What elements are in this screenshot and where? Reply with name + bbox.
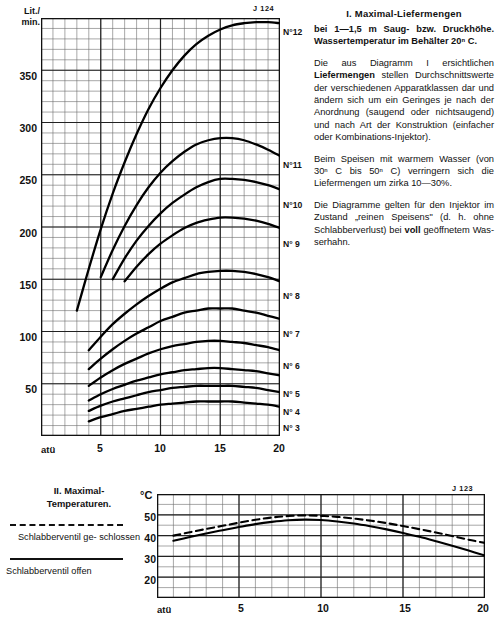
series-curve-1 <box>173 515 485 542</box>
chart-two-x-axis-unit: atü <box>157 604 171 615</box>
chart-two-y-axis-unit: °C <box>140 489 152 501</box>
chart-two-ytick-30: 30 <box>122 553 156 565</box>
chart-two-ytick-20: 20 <box>122 574 156 586</box>
curve-label-8: N° 8 <box>283 291 300 301</box>
paragraph-2: Beim Speisen mit warmem Was­ser (von 30ⁿ… <box>314 153 494 190</box>
chart-two-xtick-20: 20 <box>470 602 496 614</box>
curve-label-7: N° 7 <box>283 329 300 339</box>
curve-label-5: N° 5 <box>283 389 300 399</box>
chart-one-ytick-100: 100 <box>3 331 37 343</box>
plate-id-one: J 124 <box>253 4 274 13</box>
curve-label-10: N°10 <box>283 200 302 210</box>
chart-one-ytick-50: 50 <box>3 383 37 395</box>
chart-one-y-axis-unit: Lit./ min. <box>6 6 40 28</box>
plate-id-two: J 123 <box>452 484 473 493</box>
chart-one-svg <box>41 18 280 436</box>
chart-one-ytick-350: 350 <box>3 70 37 82</box>
curve-label-9: N° 9 <box>283 239 300 249</box>
series-curve-1 <box>77 22 280 311</box>
curve-label-11: N°11 <box>283 160 302 170</box>
series-group <box>77 22 280 421</box>
curve-label-3: N° 3 <box>283 423 300 433</box>
chart-one-xtick-20: 20 <box>266 442 292 454</box>
paragraph-3-bold: voll <box>405 225 421 235</box>
paragraph-1-post: stellen Durch­schnittswerte der verschie… <box>314 70 494 142</box>
text-column: I. Maximal-Liefermengen bei 1—1,5 m Saug… <box>314 8 494 258</box>
paragraph-1: Die aus Diagramm I ersichtlichen Lieferm… <box>314 57 494 144</box>
chart-two-ytick-50: 50 <box>122 511 156 523</box>
chart-one-ytick-300: 300 <box>3 122 37 134</box>
section-two-heading-line1: II. Maximal- <box>54 485 105 496</box>
diagram-one: Lit./ min. J 124 350 300 250 200 150 100… <box>0 0 312 470</box>
chart-one-x-axis-unit: atü <box>41 444 55 455</box>
curve-label-4: N° 4 <box>283 407 300 417</box>
chart-one-xtick-15: 15 <box>207 442 233 454</box>
section-two-heading: II. Maximal- Temperaturen. <box>4 484 154 510</box>
curve-label-12: N°12 <box>283 27 302 37</box>
chart-two-plot-area <box>157 494 485 598</box>
legend-swatch-solid <box>10 554 125 563</box>
section-one-heading: I. Maximal-Liefermengen <box>314 8 494 19</box>
paragraph-2-text: Beim Speisen mit warmem Was­ser (von 30ⁿ… <box>314 154 494 189</box>
chart-two-xtick-15: 15 <box>392 602 418 614</box>
legend-swatch-dashed <box>10 520 125 529</box>
chart-one-xtick-5: 5 <box>87 442 113 454</box>
diagram-two: II. Maximal- Temperaturen. Schlabbervent… <box>0 478 498 634</box>
chart-two-xtick-5: 5 <box>228 602 254 614</box>
section-two-heading-line2: Temperaturen. <box>47 498 111 509</box>
chart-one-ytick-150: 150 <box>3 279 37 291</box>
paragraph-1-bold: Liefermengen <box>314 70 375 80</box>
chart-two-svg <box>157 494 485 598</box>
chart-two-xtick-10: 10 <box>310 602 336 614</box>
chart-one-plot-area <box>41 18 280 436</box>
chart-one-ytick-250: 250 <box>3 174 37 186</box>
series-curve-2 <box>101 138 280 277</box>
chart-one-ytick-200: 200 <box>3 227 37 239</box>
paragraph-3: Die Diagramme gelten für den Injektor im… <box>314 199 494 249</box>
chart-one-xtick-10: 10 <box>147 442 173 454</box>
curve-label-6: N° 6 <box>283 361 300 371</box>
section-one-subheading: bei 1—1,5 m Saug- bzw. Druck­höhe. Wasse… <box>314 23 494 48</box>
chart-two-ytick-40: 40 <box>122 532 156 544</box>
paragraph-1-pre: Die aus Diagramm I ersichtlichen <box>314 58 494 68</box>
page-root: Lit./ min. J 124 350 300 250 200 150 100… <box>0 0 498 634</box>
